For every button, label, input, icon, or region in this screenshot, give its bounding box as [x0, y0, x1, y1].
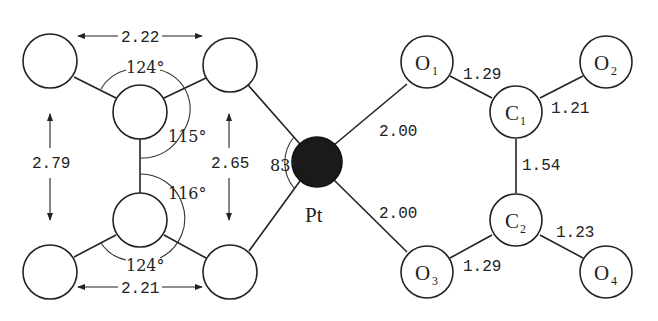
label-c1-c2: 1.54 [522, 157, 560, 175]
atom-top-middle [113, 85, 167, 139]
atom-o2: O 2 [580, 36, 632, 88]
atom-o3: O 3 [401, 246, 453, 298]
label-right-vertical-distance: 2.65 [211, 155, 249, 173]
bond-c1-o2 [540, 76, 583, 98]
label-o1-c1: 1.29 [463, 66, 501, 84]
atom-bottom-middle [113, 193, 167, 247]
label-c2-o4: 1.23 [556, 224, 594, 242]
o3-index: 3 [432, 274, 438, 288]
bond-botmid-botleft [74, 235, 116, 257]
label-left-vertical-distance: 2.79 [32, 155, 70, 173]
o2-index: 2 [611, 64, 617, 78]
label-angle-bottom-outer: 124° [126, 256, 165, 275]
molecular-structure-diagram: Pt O 1 O 2 C 1 C 2 O 3 O [0, 0, 658, 321]
bond-c2-o3 [450, 235, 492, 258]
pt-label: Pt [305, 203, 323, 227]
arc-top-outer-124 [101, 70, 126, 89]
label-c2-o3: 1.29 [463, 258, 501, 276]
label-top-distance: 2.22 [121, 29, 159, 47]
atom-top-right [203, 38, 257, 92]
atom-c2: C 2 [490, 194, 542, 246]
atom-o1: O 1 [401, 36, 453, 88]
o1-element: O [415, 51, 430, 75]
atom-o4: O 4 [580, 246, 632, 298]
bond-topleft-topmid [74, 77, 116, 98]
label-angle-top-outer: 124° [126, 58, 165, 77]
o4-index: 4 [611, 274, 617, 288]
o3-element: O [415, 261, 430, 285]
bond-topright-pt [248, 85, 300, 144]
o1-index: 1 [432, 64, 438, 78]
c1-index: 1 [520, 114, 526, 128]
label-angle-top-inner: 115° [168, 127, 207, 146]
left-ligand-bonds [74, 77, 300, 258]
atom-top-left [23, 34, 77, 88]
bond-botmid-botright [164, 235, 206, 258]
c1-element: C [505, 101, 519, 125]
right-bond-labels: 2.00 2.00 1.29 1.21 1.54 1.29 1.23 [379, 66, 594, 276]
c2-index: 2 [520, 222, 526, 236]
label-angle-bite: 83° [270, 156, 298, 175]
label-pt-o3: 2.00 [379, 205, 417, 223]
pt-sphere [292, 137, 342, 187]
c2-element: C [505, 209, 519, 233]
atom-c1: C 1 [490, 86, 542, 138]
o4-element: O [594, 261, 609, 285]
atom-bottom-right [203, 245, 257, 299]
o2-element: O [594, 51, 609, 75]
label-c1-o2: 1.21 [551, 100, 589, 118]
label-bottom-distance: 2.21 [121, 280, 159, 298]
bond-botright-pt [249, 181, 300, 251]
atom-bottom-left [23, 245, 77, 299]
label-pt-o1: 2.00 [379, 123, 417, 141]
label-angle-bottom-inner: 116° [168, 184, 207, 203]
